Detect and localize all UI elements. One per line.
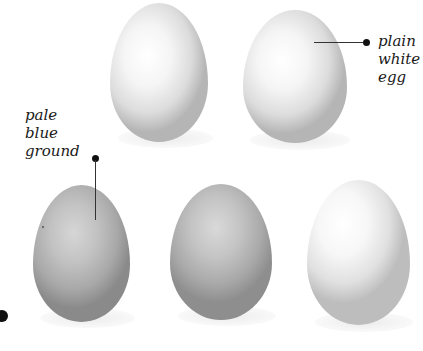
top-left-egg bbox=[110, 3, 208, 142]
label-line: white bbox=[378, 50, 420, 68]
top-right-egg bbox=[243, 10, 347, 143]
label-plain-white-egg: plain white egg bbox=[378, 32, 420, 86]
bottom-left-egg bbox=[33, 185, 130, 322]
bottom-right-egg bbox=[307, 180, 410, 325]
label-line: pale bbox=[25, 106, 80, 124]
label-line: egg bbox=[378, 68, 420, 86]
egg-speck bbox=[42, 226, 44, 228]
callout-dot bbox=[363, 39, 370, 46]
label-line: plain bbox=[378, 32, 420, 50]
partial-dot bbox=[0, 310, 8, 322]
label-line: blue bbox=[25, 124, 80, 142]
bottom-middle-egg bbox=[170, 184, 272, 320]
label-line: ground bbox=[25, 142, 80, 160]
callout-line bbox=[95, 160, 96, 220]
label-pale-blue-ground: pale blue ground bbox=[25, 106, 80, 160]
callout-line bbox=[314, 42, 366, 43]
